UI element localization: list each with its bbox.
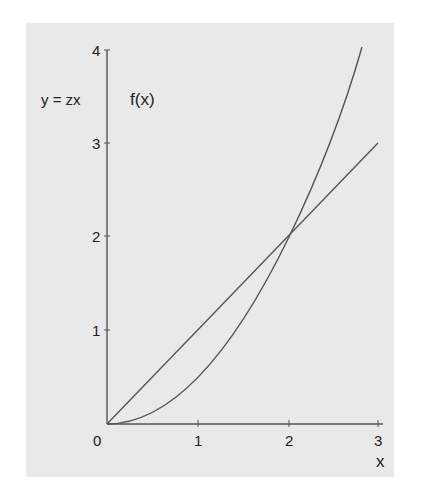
- x-axis-label: x: [376, 452, 385, 471]
- y-tick-label-3: 3: [92, 135, 100, 152]
- curve-annotation: f(x): [130, 90, 155, 109]
- line-annotation: y = zx: [41, 91, 81, 108]
- y-tick-label-2: 2: [92, 228, 100, 245]
- chart-svg: 1 2 3 4 0 1 2 3 x y = zx f(x): [0, 0, 426, 488]
- x-tick-label-1: 1: [194, 432, 202, 449]
- y-tick-label-4: 4: [92, 42, 100, 59]
- origin-label: 0: [93, 432, 101, 449]
- line-y-equals-zx: [107, 143, 378, 424]
- y-tick-label-1: 1: [92, 322, 100, 339]
- x-tick-label-2: 2: [285, 432, 293, 449]
- x-tick-label-3: 3: [374, 432, 382, 449]
